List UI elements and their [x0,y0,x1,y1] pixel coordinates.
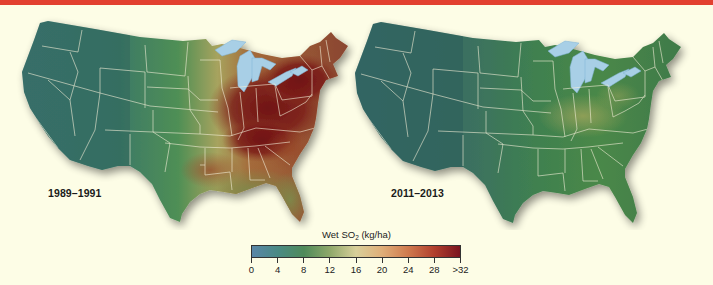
colorbar-tick [356,258,357,263]
colorbar-ticks: 0481216202428>32 [0,258,713,285]
colorbar-tick-label: 28 [429,264,440,275]
maps-figure [0,0,713,230]
colorbar-tick-label: 16 [351,264,362,275]
colorbar-tick [329,258,330,263]
colorbar-tick [460,258,461,263]
colorbar-tick-label: 20 [377,264,388,275]
colorbar-tick [434,258,435,263]
colorbar-tick-label: 8 [301,264,306,275]
colorbar-tick-label: 12 [325,264,336,275]
colorbar-tick-label: 4 [275,264,280,275]
colorbar-tick-label: 0 [249,264,254,275]
legend-title-suffix: (kg/ha) [359,229,391,240]
period-label-2011-2013: 2011–2013 [391,187,444,199]
colorbar-tick [303,258,304,263]
legend-title: Wet SO2 (kg/ha) [0,229,713,241]
colorbar-tick [251,258,252,263]
colorbar [251,245,461,258]
colorbar-tick [382,258,383,263]
colorbar-tick-label: >32 [452,264,468,275]
legend-title-prefix: Wet SO [322,229,355,240]
colorbar-tick [277,258,278,263]
period-label-1989-1991: 1989–1991 [48,187,101,199]
colorbar-tick [408,258,409,263]
colorbar-tick-label: 24 [403,264,414,275]
